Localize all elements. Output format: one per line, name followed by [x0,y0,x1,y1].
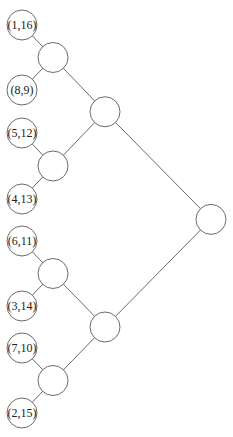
node-label: (8,9) [11,83,34,97]
node-label: (3,14) [8,299,37,313]
internal-node [38,366,68,396]
bracket-tree-diagram: (1,16)(8,9)(5,12)(4,13)(6,11)(3,14)(7,10… [0,0,233,437]
leaf-node: (4,13) [7,184,37,214]
root-node-circle [196,204,226,234]
leaf-node: (2,15) [7,398,37,428]
edge-root-b2 [105,219,211,327]
internal-node [38,151,68,181]
internal-node-circle [38,151,68,181]
node-label: (1,16) [8,18,37,32]
nodes-layer: (1,16)(8,9)(5,12)(4,13)(6,11)(3,14)(7,10… [7,10,226,428]
node-label: (5,12) [8,126,37,140]
leaf-node: (3,14) [7,291,37,321]
node-label: (6,11) [8,234,37,248]
internal-node [38,259,68,289]
edges-layer [22,25,211,413]
internal-node-circle [38,259,68,289]
root-node [196,204,226,234]
leaf-node: (6,11) [7,226,37,256]
internal-node [90,97,120,127]
internal-node-circle [38,366,68,396]
node-label: (7,10) [8,341,37,355]
node-label: (4,13) [8,192,37,206]
internal-node-circle [90,312,120,342]
internal-node-circle [90,97,120,127]
internal-node-circle [38,43,68,73]
edge-root-b1 [105,112,211,220]
leaf-node: (8,9) [7,75,37,105]
internal-node [38,43,68,73]
leaf-node: (1,16) [7,10,37,40]
node-label: (2,15) [8,406,37,420]
leaf-node: (7,10) [7,333,37,363]
leaf-node: (5,12) [7,118,37,148]
internal-node [90,312,120,342]
